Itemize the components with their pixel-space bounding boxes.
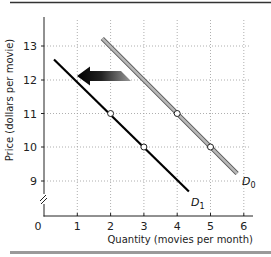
x-tick-5: 5 — [207, 220, 214, 233]
y-tick-11: 11 — [23, 108, 37, 121]
label-d1: D1 — [191, 196, 205, 211]
y-tick-13: 13 — [23, 40, 37, 53]
point-d1-q2 — [108, 111, 114, 117]
curve-d0 — [102, 39, 237, 174]
x-tick-0: 0 — [35, 220, 42, 233]
y-tick-10: 10 — [23, 141, 37, 154]
grid — [44, 20, 250, 216]
demand-shift-chart: 13 12 11 10 9 0 1 2 3 4 5 6 Quantity (mo… — [0, 0, 271, 257]
y-axis-title: Price (dollars per movie) — [4, 39, 15, 162]
point-d0-q4 — [174, 111, 180, 117]
axis-break-icon — [38, 194, 50, 204]
points — [108, 111, 214, 151]
x-tick-1: 1 — [74, 220, 81, 233]
x-tick-4: 4 — [174, 220, 181, 233]
bottom-rule — [10, 251, 271, 254]
x-axis-title: Quantity (movies per month) — [107, 234, 253, 245]
x-tick-6: 6 — [240, 220, 247, 233]
point-d0-q5 — [208, 144, 214, 150]
y-tick-12: 12 — [23, 74, 37, 87]
x-tick-2: 2 — [107, 220, 114, 233]
y-tick-9: 9 — [30, 175, 37, 188]
point-d1-q3 — [141, 144, 147, 150]
label-d0: D0 — [242, 175, 256, 190]
shift-left-arrow-icon — [77, 67, 131, 86]
x-tick-3: 3 — [140, 220, 147, 233]
